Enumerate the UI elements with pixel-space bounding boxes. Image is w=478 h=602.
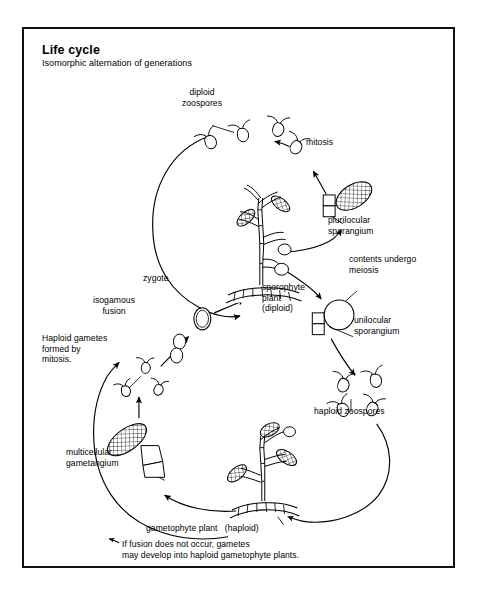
arrow-unilocular-to-haploid-zoospores — [331, 339, 355, 376]
label-sporophyte-plant: sporophyte plant (diploid) — [262, 282, 305, 314]
label-mitosis: mitosis — [306, 137, 333, 148]
fusing-gametes-drawing — [170, 334, 185, 363]
label-zygote: zygote — [143, 273, 169, 284]
arrow-mitosis-to-diploid-zoospores — [275, 141, 290, 146]
arrow-alt-pathway-to-gametes — [107, 362, 119, 376]
diploid-zoospores-drawing — [193, 113, 311, 158]
label-alt-pathway-note: If fusion does not occur, gametes may de… — [122, 539, 299, 560]
label-haploid-gametes: Haploid gametes formed by mitosis. — [42, 333, 107, 365]
label-haploid-zoospores: haploid zoospores — [314, 406, 385, 417]
label-plurilocular-sporangium: plurilocular sporangium — [328, 215, 373, 236]
label-contents-undergo-meiosis: contents undergo meiosis — [349, 254, 416, 275]
life-cycle-figure: Life cycle Isomorphic alternation of gen… — [22, 27, 455, 568]
haploid-gametes-drawing — [113, 355, 169, 399]
unilocular-sporangium-drawing — [312, 300, 354, 335]
leader-diploid-zoospores — [212, 126, 234, 133]
arrow-gametophyte-to-gametangium — [165, 495, 236, 511]
label-multicellular-gametangium: multicellular gametangium — [66, 447, 119, 468]
arc-haploid-zoospores-to-gametophyte — [307, 424, 389, 522]
zygote-drawing — [194, 308, 211, 330]
gametophyte-plant-drawing — [224, 420, 299, 518]
plurilocular-sporangium-drawing — [323, 176, 377, 217]
arrow-plurilocular-to-mitosis — [313, 171, 326, 194]
label-gametophyte-plant: gametophyte plant (haploid) — [146, 523, 259, 534]
label-unilocular-sporangium: unilocular sporangium — [354, 315, 399, 336]
arrow-into-gametophyte-right — [288, 516, 308, 522]
label-diploid-zoospores: diploid zoospores — [166, 87, 238, 108]
label-isogamous-fusion: isogamous fusion — [76, 295, 152, 316]
arrow-note-pointer — [109, 539, 119, 543]
